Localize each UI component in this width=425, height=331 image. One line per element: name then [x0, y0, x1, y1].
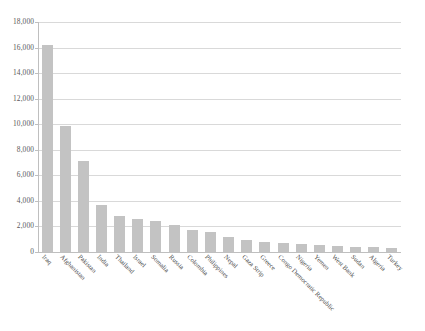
bar [259, 242, 270, 252]
bar-series [38, 22, 401, 252]
y-axis-tick-label: 2,000 [17, 222, 34, 230]
bar [187, 230, 198, 252]
y-axis-tick-label: 8,000 [17, 146, 34, 154]
bar [205, 232, 216, 252]
x-axis-category-label: Yemen [313, 253, 331, 271]
bar [386, 248, 397, 252]
x-axis-category-label: Algeria [368, 253, 387, 272]
y-axis-tick-label: 6,000 [17, 171, 34, 179]
x-axis-category-labels: IraqAfghanistanPakistanIndiaThailandIsra… [38, 253, 425, 331]
bar [78, 161, 89, 252]
bar [60, 126, 71, 253]
x-axis-category-label: Israel [132, 253, 148, 269]
y-axis-tick-label: 4,000 [17, 197, 34, 205]
bar [350, 247, 361, 252]
x-axis-category-label: Iraq [41, 253, 54, 266]
bar [96, 205, 107, 252]
y-axis-tick-label: 14,000 [13, 69, 34, 77]
bar [169, 225, 180, 252]
y-axis-tick-label: 0 [30, 248, 34, 256]
bar [368, 247, 379, 252]
bar [42, 45, 53, 252]
bar [132, 219, 143, 252]
bar [332, 246, 343, 252]
bar [114, 216, 125, 252]
x-axis-category-label: Turkey [386, 253, 404, 271]
x-axis-category-label: India [96, 253, 111, 268]
y-axis-tick-label: 12,000 [13, 95, 34, 103]
bar [241, 240, 252, 252]
x-axis-category-label: Somalia [150, 253, 170, 273]
bar [223, 237, 234, 252]
bar-chart: 02,0004,0006,0008,00010,00012,00014,0001… [0, 0, 425, 331]
bar [150, 221, 161, 252]
y-axis-tick-labels: 02,0004,0006,0008,00010,00012,00014,0001… [0, 0, 34, 331]
bar [278, 243, 289, 252]
bar [314, 245, 325, 252]
y-axis-tick-label: 16,000 [13, 44, 34, 52]
y-axis-tick-label: 10,000 [13, 120, 34, 128]
x-axis-category-label: Nepal [223, 253, 239, 269]
x-axis-category-label: Sudan [350, 253, 367, 270]
bar [296, 244, 307, 252]
y-axis-tick-label: 18,000 [13, 18, 34, 26]
